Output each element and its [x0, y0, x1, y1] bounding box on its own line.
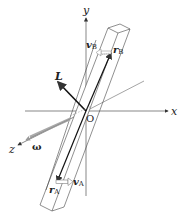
origin-label: O [86, 113, 94, 124]
z-axis-label: z [8, 143, 15, 156]
x-axis-label: x [171, 105, 178, 118]
v-B-label: vB [86, 39, 97, 51]
v-A-label: vA [73, 176, 85, 188]
L-label: L [54, 70, 63, 83]
rotating-rod-diagram: y x z O L ω vB rB rA vA [0, 0, 181, 216]
r-B-label: rB [113, 44, 123, 56]
omega-label: ω [32, 141, 42, 152]
y-axis-label: y [82, 4, 90, 17]
